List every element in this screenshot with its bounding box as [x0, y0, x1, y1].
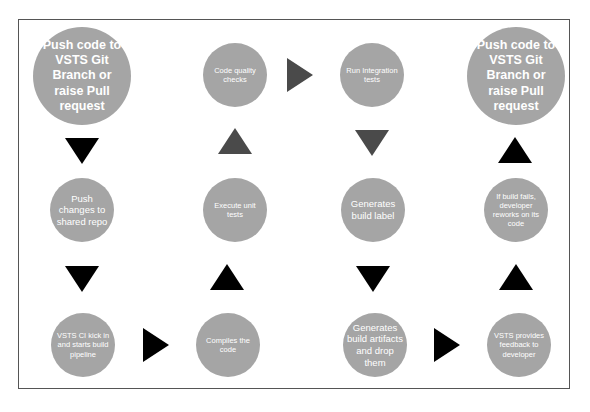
- node-label: Generates build label: [345, 198, 401, 221]
- node-vsts-ci-kick-in: VSTS CI kick in and starts build pipelin…: [51, 313, 115, 377]
- node-label: Generates build artifacts and drop them: [347, 322, 403, 368]
- arrow-down-icon: [65, 138, 99, 164]
- node-label: If build fails, developer reworks on its…: [488, 192, 544, 229]
- arrow-right-icon: [434, 328, 460, 362]
- arrow-right-icon: [287, 58, 313, 92]
- node-label: Code quality checks: [207, 66, 263, 84]
- node-push-code-start: Push code to VSTS Git Branch or raise Pu…: [33, 27, 131, 125]
- node-vsts-provides-feedback: VSTS provides feedback to developer: [487, 313, 551, 377]
- arrow-down-icon: [356, 266, 390, 292]
- node-execute-unit-tests: Execute unit tests: [203, 178, 267, 242]
- node-code-quality-checks: Code quality checks: [203, 43, 267, 107]
- node-label: Execute unit tests: [207, 201, 263, 219]
- node-push-changes: Push changes to shared repo: [50, 178, 114, 242]
- node-run-integration-tests: Run Integration tests: [340, 43, 404, 107]
- node-label: VSTS CI kick in and starts build pipelin…: [55, 331, 111, 358]
- arrow-up-icon: [210, 264, 244, 290]
- node-label: Push code to VSTS Git Branch or raise Pu…: [471, 38, 561, 114]
- caption-remnant: [0, 0, 590, 4]
- arrow-down-icon: [355, 130, 389, 156]
- node-build-fails-rework: If build fails, developer reworks on its…: [484, 178, 548, 242]
- node-label: VSTS provides feedback to developer: [491, 331, 547, 358]
- node-label: Push changes to shared repo: [54, 193, 110, 228]
- node-label: Compiles the code: [200, 336, 256, 354]
- arrow-up-icon: [218, 128, 252, 154]
- arrow-up-icon: [498, 137, 532, 163]
- node-compiles-the-code: Compiles the code: [196, 313, 260, 377]
- node-generates-build-artifacts: Generates build artifacts and drop them: [343, 313, 407, 377]
- arrow-down-icon: [65, 266, 99, 292]
- node-push-code-end: Push code to VSTS Git Branch or raise Pu…: [467, 27, 565, 125]
- arrow-up-icon: [499, 264, 533, 290]
- node-label: Run Integration tests: [344, 66, 400, 84]
- node-label: Push code to VSTS Git Branch or raise Pu…: [37, 38, 127, 114]
- arrow-right-icon: [143, 328, 169, 362]
- node-generates-build-label: Generates build label: [341, 178, 405, 242]
